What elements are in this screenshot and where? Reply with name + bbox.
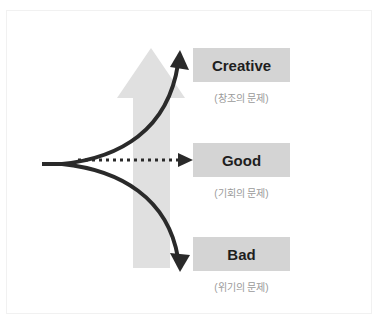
arrowhead-bad-icon <box>170 253 190 272</box>
outcome-label: Good <box>222 152 261 169</box>
outcome-box-creative: Creative <box>193 48 290 82</box>
outcome-label: Creative <box>212 57 271 74</box>
arrowhead-good-icon <box>178 153 193 167</box>
outcome-subtitle-creative: (창조의 문제) <box>193 90 290 105</box>
outcome-box-good: Good <box>193 143 290 177</box>
outcome-subtitle-good: (기회의 문제) <box>193 185 290 200</box>
arrowhead-creative-icon <box>170 50 189 70</box>
outcome-subtitle-bad: (위기의 문제) <box>193 279 290 294</box>
outcome-label: Bad <box>227 246 255 263</box>
divergence-diagram <box>0 0 382 322</box>
outcome-box-bad: Bad <box>193 237 290 271</box>
